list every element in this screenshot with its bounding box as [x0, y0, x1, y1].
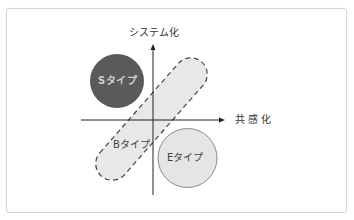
s-type-label: Sタイプ — [98, 76, 137, 86]
horizontal-axis-label: 共感化 — [235, 115, 274, 125]
e-type-label: Eタイプ — [167, 153, 203, 163]
vertical-axis-label: システム化 — [129, 28, 179, 38]
arrow-right-icon — [219, 118, 225, 123]
arrow-up-icon — [151, 44, 156, 50]
b-type-label: Bタイプ — [113, 140, 150, 150]
